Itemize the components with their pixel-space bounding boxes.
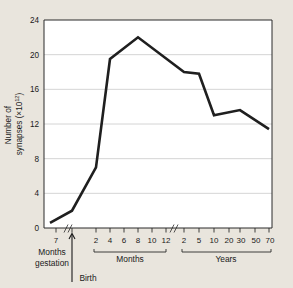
birth-marker xyxy=(69,234,75,283)
x-tick-years-50: 50 xyxy=(252,236,261,245)
y-axis-title-line2: synapses (×10 xyxy=(15,101,24,155)
synapse-density-chart: 24 20 16 12 8 4 0 Number of synapses (×1… xyxy=(0,0,293,288)
x-tick-months-8: 8 xyxy=(136,236,141,245)
x-axis-labels: 7 2 4 6 8 10 12 2 5 10 20 30 50 70 xyxy=(54,236,275,245)
y-axis-ticks: 24 20 16 12 8 4 0 xyxy=(30,16,40,233)
y-tick-12: 12 xyxy=(30,120,40,129)
x-tick-years-70: 70 xyxy=(266,236,275,245)
x-tick-years-5: 5 xyxy=(197,236,202,245)
y-axis-title: Number of synapses (×1012) xyxy=(4,93,24,156)
y-axis-title-line2-tail: ) xyxy=(15,93,24,96)
gestation-group-label-line1: Months xyxy=(38,247,65,257)
y-tick-20: 20 xyxy=(30,51,40,60)
svg-text:Number of s: Number of synapses (×1012) xyxy=(4,93,24,156)
x-tick-years-30: 30 xyxy=(237,236,246,245)
y-tick-4: 4 xyxy=(34,189,39,198)
birth-label: Birth xyxy=(79,273,97,283)
x-tick-months-12: 12 xyxy=(162,236,171,245)
x-tick-months-2: 2 xyxy=(94,236,99,245)
y-axis-title-line1: Number of xyxy=(4,105,13,144)
chart-svg: 24 20 16 12 8 4 0 Number of synapses (×1… xyxy=(0,0,293,288)
x-axis-tickmarks xyxy=(56,228,269,233)
x-tick-gestation-7: 7 xyxy=(54,236,59,245)
years-group-label: Years xyxy=(215,254,236,264)
x-tick-months-4: 4 xyxy=(108,236,113,245)
years-brace xyxy=(182,249,271,252)
y-tick-0: 0 xyxy=(34,224,39,233)
y-tick-16: 16 xyxy=(30,85,40,94)
x-tick-months-6: 6 xyxy=(122,236,127,245)
months-brace xyxy=(94,249,166,252)
x-tick-years-2: 2 xyxy=(182,236,187,245)
months-group-label: Months xyxy=(116,254,143,264)
x-tick-years-10: 10 xyxy=(210,236,219,245)
y-tick-8: 8 xyxy=(34,155,39,164)
gestation-group-label-line2: gestation xyxy=(35,258,69,268)
x-tick-months-10: 10 xyxy=(148,236,157,245)
x-tick-years-20: 20 xyxy=(225,236,234,245)
y-tick-24: 24 xyxy=(30,16,40,25)
